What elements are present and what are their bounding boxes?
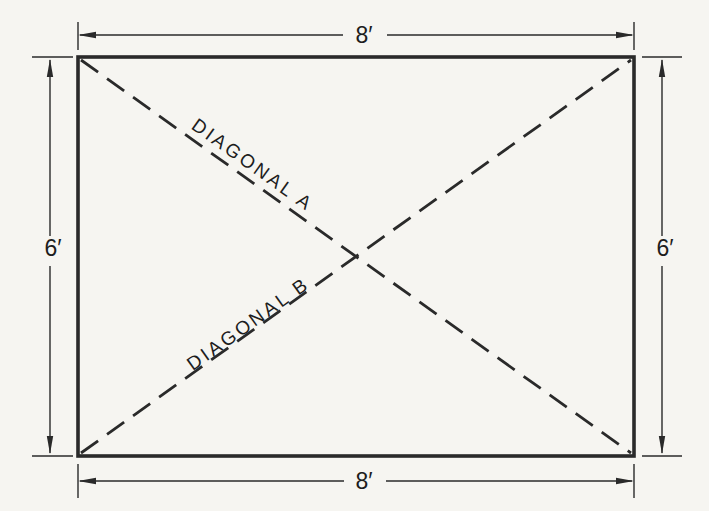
dimension-label-bottom: 8′ [355, 468, 372, 494]
dimension-label-top: 8′ [355, 22, 372, 48]
arrowhead-down-icon [47, 436, 53, 454]
bottom-dimension: 8′ [78, 464, 634, 498]
top-dimension: 8′ [78, 22, 634, 50]
arrowhead-left-icon [78, 478, 96, 484]
arrowhead-right-icon [616, 478, 634, 484]
arrowhead-up-icon [659, 59, 665, 77]
left-dimension: 6′ [32, 57, 73, 456]
arrowhead-right-icon [616, 32, 634, 38]
diagonal-a-label: DIAGONAL A [188, 114, 318, 215]
diagonal-b-label: DIAGONAL B [183, 273, 313, 375]
dimension-label-right: 6′ [656, 235, 673, 261]
dimension-label-left: 6′ [44, 235, 61, 261]
arrowhead-left-icon [78, 32, 96, 38]
arrowhead-down-icon [659, 436, 665, 454]
diagram-canvas: DIAGONAL A DIAGONAL B 8′ 8′ [0, 0, 709, 511]
right-dimension: 6′ [642, 57, 682, 456]
squaring-diagonals-figure: DIAGONAL A DIAGONAL B 8′ 8′ [0, 0, 709, 511]
arrowhead-up-icon [47, 59, 53, 77]
